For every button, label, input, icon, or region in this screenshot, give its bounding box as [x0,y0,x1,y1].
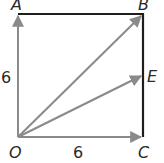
vector-oe [18,76,141,137]
side-length-oc: 6 [73,143,83,162]
label-b: B [138,0,149,14]
square-vector-diagram: A B E O C 6 6 [0,0,164,163]
label-c: C [138,143,150,162]
label-o: O [9,143,22,162]
vector-ob [18,16,141,137]
label-a: A [10,0,22,14]
side-length-oa: 6 [1,68,11,87]
label-e: E [147,67,158,86]
